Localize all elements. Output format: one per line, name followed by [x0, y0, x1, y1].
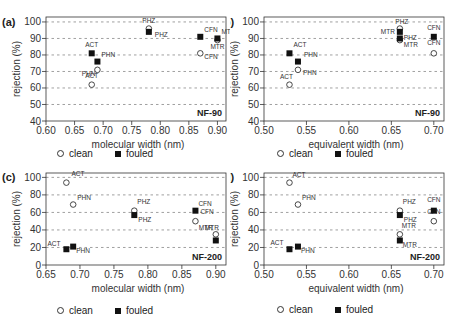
fouled-marker-icon — [89, 50, 95, 56]
point-label: PHN — [303, 69, 317, 76]
legend-fouled-label: fouled — [126, 305, 153, 316]
y-axis-label: rejection (%) — [230, 191, 240, 247]
scatter-plot-c: 0204060801000.650.700.750.800.850.90mole… — [0, 160, 230, 323]
plot-frame — [46, 17, 226, 121]
x-tick-label: 0.70 — [70, 269, 90, 280]
point-label: CFN — [427, 39, 441, 46]
clean-marker-icon — [431, 218, 437, 224]
y-tick-label: 100 — [24, 16, 41, 27]
point-label: MTR — [221, 28, 230, 35]
point-label: ACT — [293, 41, 306, 48]
x-tick-label: 0.85 — [179, 125, 199, 136]
x-axis-label: equivalent width (nm) — [308, 283, 403, 294]
clean-marker-icon — [431, 51, 437, 57]
chart-panel-b: 4050607080901000.500.550.600.650.70equiv… — [230, 0, 459, 160]
fouled-marker-icon — [214, 35, 220, 41]
legend-top-right: clean fouled — [277, 148, 373, 159]
y-tick-label: 100 — [242, 172, 259, 183]
point-label: PHN — [76, 247, 90, 254]
x-tick-label: 0.60 — [36, 125, 56, 136]
fouled-marker-icon — [286, 50, 292, 56]
point-label: PHN — [304, 51, 318, 58]
point-label: PHZ — [395, 18, 408, 25]
point-label: MTR — [403, 241, 417, 248]
x-tick-label: 0.75 — [122, 125, 142, 136]
clean-marker-icon — [295, 67, 301, 73]
legend-clean-label: clean — [289, 304, 313, 315]
point-label: CFN — [427, 196, 441, 203]
x-tick-label: 0.55 — [297, 125, 317, 136]
legend-fouled-label: fouled — [346, 148, 373, 159]
point-label: CFN — [204, 26, 218, 33]
y-tick-label: 100 — [24, 172, 41, 183]
x-tick-label: 0.85 — [172, 269, 192, 280]
legend-bottom-left: clean fouled — [57, 305, 153, 316]
fouled-marker-icon — [397, 29, 403, 35]
y-tick-label: 20 — [30, 242, 42, 253]
fouled-marker-icon — [197, 34, 203, 40]
filled-square-icon — [335, 151, 341, 157]
x-tick-label: 0.50 — [254, 125, 274, 136]
x-tick-label: 0.65 — [65, 125, 85, 136]
clean-marker-icon — [70, 202, 76, 208]
legend-bottom-right: clean fouled — [277, 304, 373, 315]
clean-marker-icon — [397, 232, 403, 238]
membrane-label: NF-90 — [415, 108, 440, 118]
scatter-plot-a: 4050607080901000.600.650.700.750.800.850… — [0, 0, 230, 160]
point-label: PHZ — [142, 17, 155, 24]
open-circle-icon — [57, 307, 64, 314]
clean-marker-icon — [213, 232, 219, 238]
x-tick-label: 0.55 — [297, 269, 317, 280]
point-label: ACT — [270, 239, 283, 246]
y-tick-label: 80 — [30, 189, 42, 200]
y-axis-label: rejection (%) — [11, 191, 22, 247]
fouled-marker-icon — [146, 29, 152, 35]
point-label: MTR — [381, 28, 395, 35]
x-tick-label: 0.70 — [93, 125, 113, 136]
plot-frame — [264, 17, 444, 121]
chart-panel-c: 0204060801000.650.700.750.800.850.90mole… — [0, 160, 230, 323]
fouled-marker-icon — [431, 208, 437, 214]
clean-marker-icon — [193, 218, 199, 224]
point-label: CFN — [200, 208, 214, 215]
point-label: CFN — [204, 53, 218, 60]
y-tick-label: 60 — [248, 207, 260, 218]
filled-square-icon — [335, 307, 341, 313]
point-label: ACT — [280, 73, 293, 80]
filled-square-icon — [115, 151, 121, 157]
x-tick-label: 0.65 — [382, 125, 402, 136]
point-label: MTR — [210, 43, 224, 50]
panel-label: (d) — [230, 171, 234, 183]
y-tick-label: 70 — [30, 66, 42, 77]
clean-marker-icon — [287, 180, 293, 186]
x-tick-label: 0.50 — [254, 269, 274, 280]
point-label: PHZ — [404, 216, 417, 223]
fouled-marker-icon — [192, 208, 198, 214]
filled-square-icon — [115, 308, 121, 314]
point-label: PHN — [302, 194, 316, 201]
panel-label: (b) — [230, 16, 234, 28]
legend-fouled-label: fouled — [126, 148, 153, 159]
membrane-label: NF-90 — [197, 108, 222, 118]
x-tick-label: 0.90 — [206, 269, 226, 280]
x-tick-label: 0.60 — [339, 269, 359, 280]
point-label: ACT — [85, 41, 98, 48]
x-tick-label: 0.65 — [382, 269, 402, 280]
y-tick-label: 50 — [248, 99, 260, 110]
fouled-marker-icon — [63, 246, 69, 252]
fouled-marker-icon — [397, 212, 403, 218]
x-tick-label: 0.80 — [151, 125, 171, 136]
y-tick-label: 70 — [248, 66, 260, 77]
x-axis-label: molecular width (nm) — [92, 283, 185, 294]
point-label: CFN — [198, 200, 212, 207]
point-label: PHZ — [403, 198, 416, 205]
clean-marker-icon — [287, 82, 293, 88]
y-tick-label: 80 — [248, 189, 260, 200]
point-label: MTR — [404, 41, 418, 48]
fouled-marker-icon — [295, 59, 301, 65]
chart-panel-a: 4050607080901000.600.650.700.750.800.850… — [0, 0, 230, 160]
y-tick-label: 40 — [248, 224, 260, 235]
point-label: PHZ — [137, 198, 150, 205]
x-tick-label: 0.65 — [36, 269, 56, 280]
y-tick-label: 60 — [248, 82, 260, 93]
